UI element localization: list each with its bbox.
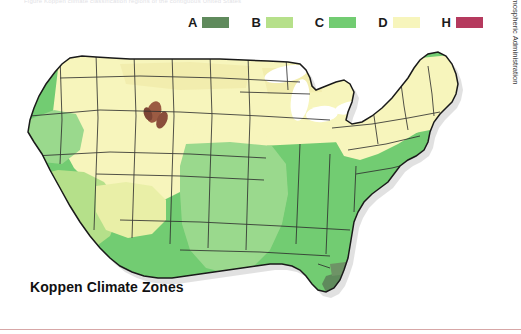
- figure-caption: Figure Koppen climate classification reg…: [24, 0, 454, 7]
- bottom-divider: [0, 329, 521, 330]
- map-title: Koppen Climate Zones: [30, 279, 184, 295]
- koppen-climate-zones-figure: Figure Koppen climate classification reg…: [0, 0, 521, 334]
- photo-credit: Courtesy of National Oceanic and Atmosph…: [507, 0, 520, 104]
